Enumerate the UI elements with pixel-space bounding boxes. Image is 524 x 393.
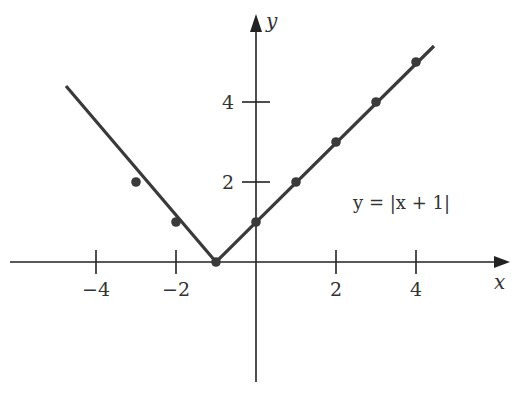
y-tick-label: 4: [222, 91, 234, 113]
x-tick-label: −4: [82, 278, 110, 300]
data-point: [411, 57, 421, 67]
y-ticks: 24: [222, 91, 270, 193]
data-point: [131, 177, 141, 187]
equation-label: y = |x + 1|: [352, 192, 450, 214]
data-point: [371, 97, 381, 107]
x-tick-label: 2: [330, 278, 342, 300]
data-point: [171, 217, 181, 227]
data-point: [291, 177, 301, 187]
x-axis-label: x: [494, 270, 505, 294]
abs-curve: [66, 46, 434, 267]
y-axis: [250, 14, 262, 382]
x-ticks: −4−224: [82, 250, 422, 300]
x-axis: [10, 256, 510, 268]
abs-value-graph: −4−224 24 x y y = |x + 1|: [0, 0, 524, 393]
x-tick-label: 4: [410, 278, 422, 300]
x-tick-label: −2: [162, 278, 190, 300]
data-point: [331, 137, 341, 147]
y-axis-label: y: [265, 9, 278, 33]
abs-line: [66, 46, 434, 262]
x-axis-arrow-icon: [494, 256, 510, 268]
data-point: [251, 217, 261, 227]
y-axis-arrow-icon: [250, 14, 262, 32]
y-tick-label: 2: [222, 171, 234, 193]
data-point: [211, 257, 221, 267]
